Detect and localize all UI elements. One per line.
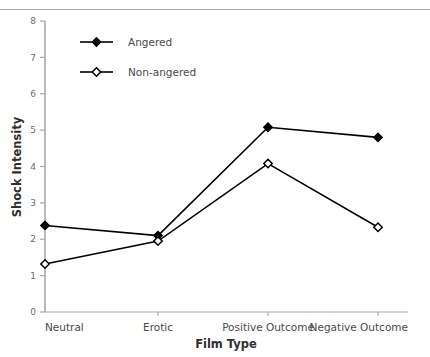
x-category-label: Positive Outcome bbox=[222, 321, 314, 333]
y-tick-label: 8 bbox=[30, 16, 36, 26]
series-line bbox=[45, 164, 378, 264]
x-axis-title: Film Type bbox=[195, 337, 257, 351]
legend-marker bbox=[92, 38, 100, 46]
x-axis-category-labels: NeutralEroticPositive OutcomeNegative Ou… bbox=[45, 321, 408, 333]
y-tick-label: 5 bbox=[30, 125, 36, 135]
y-tick-label: 4 bbox=[30, 162, 36, 172]
legend-label: Angered bbox=[128, 36, 172, 48]
data-series bbox=[41, 159, 382, 268]
y-tick-label: 3 bbox=[30, 198, 36, 208]
data-series bbox=[41, 123, 382, 240]
x-category-label: Negative Outcome bbox=[310, 321, 408, 333]
data-point-marker bbox=[374, 223, 382, 231]
legend-marker bbox=[92, 68, 100, 76]
data-point-marker bbox=[374, 133, 382, 141]
data-point-marker bbox=[41, 260, 49, 268]
figure-container: 012345678 Shock Intensity Film Type Neut… bbox=[0, 0, 430, 357]
y-tick-label: 7 bbox=[30, 53, 36, 63]
data-point-marker bbox=[41, 221, 49, 229]
x-category-label: Neutral bbox=[45, 321, 84, 333]
y-axis-ticks: 012345678 bbox=[30, 16, 45, 317]
x-category-label: Erotic bbox=[143, 321, 173, 333]
y-tick-label: 0 bbox=[30, 307, 36, 317]
series-layer bbox=[41, 123, 382, 268]
y-tick-label: 2 bbox=[30, 234, 36, 244]
series-line bbox=[45, 127, 378, 235]
y-tick-label: 1 bbox=[30, 271, 36, 281]
y-axis-title: Shock Intensity bbox=[10, 116, 24, 217]
chart-legend: AngeredNon-angered bbox=[80, 36, 196, 78]
y-tick-label: 6 bbox=[30, 89, 36, 99]
legend-label: Non-angered bbox=[128, 66, 196, 78]
line-chart: 012345678 Shock Intensity Film Type Neut… bbox=[0, 0, 430, 357]
